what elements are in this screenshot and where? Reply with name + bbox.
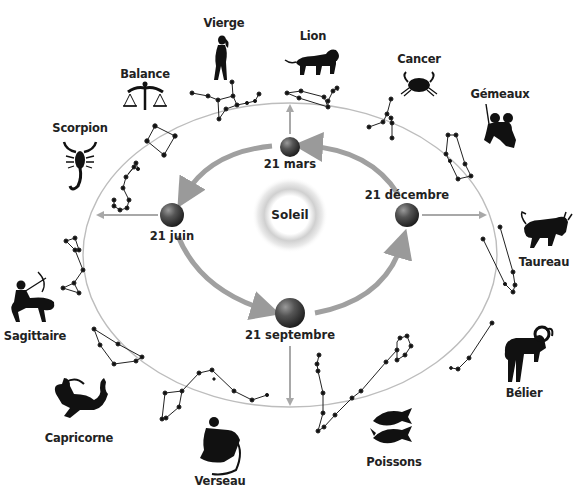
label-gemeaux: Gémeaux xyxy=(471,87,530,101)
label-taureau: Taureau xyxy=(519,255,569,269)
balance-stars xyxy=(145,124,177,157)
earth-21-juin xyxy=(160,203,184,227)
label-scorpion: Scorpion xyxy=(52,121,107,135)
ram-icon xyxy=(505,327,553,382)
lion-icon xyxy=(285,50,339,76)
label-cancer: Cancer xyxy=(397,52,440,66)
earth-21-decembre xyxy=(395,203,419,227)
date-label-21-decembre: 21 décembre xyxy=(365,188,449,202)
taureau-stars xyxy=(481,225,517,294)
label-poissons: Poissons xyxy=(366,455,421,469)
label-verseau: Verseau xyxy=(195,474,246,488)
label-belier: Bélier xyxy=(506,386,543,400)
archer-centaur-icon xyxy=(11,272,54,322)
label-capricorne: Capricorne xyxy=(45,431,113,445)
fish-icon xyxy=(370,408,412,443)
label-sagittaire: Sagittaire xyxy=(4,329,66,343)
bull-icon xyxy=(522,212,573,248)
zodiac-silhouettes xyxy=(11,36,572,475)
sun-label: Soleil xyxy=(271,208,308,222)
vierge-stars xyxy=(190,80,261,121)
date-label-21-septembre: 21 septembre xyxy=(245,328,335,342)
date-label-21-juin: 21 juin xyxy=(150,229,194,243)
label-vierge: Vierge xyxy=(204,16,245,30)
water-bearer-icon xyxy=(200,417,240,475)
capricorne-stars xyxy=(92,327,144,366)
label-balance: Balance xyxy=(120,67,170,81)
sagittaire-stars xyxy=(61,236,85,295)
scales-icon xyxy=(123,82,167,111)
date-label-21-mars: 21 mars xyxy=(264,157,316,171)
crab-icon xyxy=(401,72,437,96)
verseau-stars xyxy=(160,368,269,421)
twins-icon xyxy=(484,104,516,148)
earth-21-mars xyxy=(280,137,300,157)
label-lion: Lion xyxy=(300,29,327,43)
virgo-figure-icon xyxy=(214,36,229,81)
sea-goat-icon xyxy=(55,378,108,418)
scorpion-stars xyxy=(112,161,140,212)
earth-21-septembre xyxy=(275,298,305,328)
scorpion-icon xyxy=(64,142,96,189)
